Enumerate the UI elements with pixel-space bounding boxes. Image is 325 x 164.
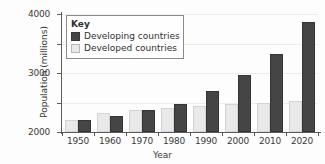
x-axis-tick-label-2010: 2010 bbox=[259, 136, 281, 146]
bar-developing-1950 bbox=[78, 120, 91, 132]
bar-developing-2010 bbox=[270, 54, 283, 132]
legend-swatch-developing bbox=[71, 32, 80, 41]
x-axis-tick bbox=[222, 132, 223, 136]
x-axis-tick bbox=[62, 132, 63, 136]
x-axis-tick bbox=[318, 132, 319, 136]
x-axis-tick bbox=[126, 132, 127, 136]
bar-developing-2000 bbox=[238, 75, 251, 132]
bar-developing-1960 bbox=[110, 116, 123, 132]
x-axis-tick-label-2000: 2000 bbox=[227, 136, 249, 146]
bar-developed-1980 bbox=[161, 108, 174, 132]
x-axis-tick bbox=[94, 132, 95, 136]
y-axis-tick: 1000 bbox=[57, 103, 62, 104]
x-axis-title: Year bbox=[0, 150, 325, 160]
legend-label-developing: Developing countries bbox=[84, 31, 180, 42]
legend-item-developed: Developed countries bbox=[71, 43, 179, 54]
bar-developed-2020 bbox=[289, 101, 302, 132]
x-axis-tick-label-2020: 2020 bbox=[291, 136, 313, 146]
x-axis-tick bbox=[286, 132, 287, 136]
x-axis-line bbox=[61, 132, 321, 133]
population-bar-chart: Population (millions) Year 0100020003000… bbox=[0, 0, 325, 164]
bar-developing-1970 bbox=[142, 110, 155, 132]
y-axis-tick: 2000 bbox=[57, 73, 62, 74]
y-axis-tick-label: 4000 bbox=[28, 9, 50, 19]
legend-title: Key bbox=[71, 19, 179, 29]
bar-developed-1970 bbox=[129, 110, 142, 132]
y-axis-tick: 3000 bbox=[57, 44, 62, 45]
chart-legend: Key Developing countries Developed count… bbox=[66, 15, 184, 59]
x-axis-tick bbox=[190, 132, 191, 136]
y-axis-tick: 4000 bbox=[57, 14, 62, 15]
x-axis-tick-label-1970: 1970 bbox=[131, 136, 153, 146]
bar-developed-1960 bbox=[97, 113, 110, 132]
x-axis-tick-label-1950: 1950 bbox=[67, 136, 89, 146]
bar-developed-2000 bbox=[225, 104, 238, 132]
x-axis-tick-label-1990: 1990 bbox=[195, 136, 217, 146]
bar-developed-1950 bbox=[65, 120, 78, 132]
legend-swatch-developed bbox=[71, 44, 80, 53]
x-axis-tick bbox=[254, 132, 255, 136]
x-axis-tick bbox=[158, 132, 159, 136]
legend-item-developing: Developing countries bbox=[71, 31, 179, 42]
bar-developing-1990 bbox=[206, 91, 219, 132]
legend-label-developed: Developed countries bbox=[84, 43, 177, 54]
y-axis-tick-label: 2000 bbox=[28, 127, 50, 137]
bar-developed-1990 bbox=[193, 106, 206, 132]
x-axis-tick-label-1980: 1980 bbox=[163, 136, 185, 146]
bar-developed-2010 bbox=[257, 103, 270, 133]
x-axis-tick-label-1960: 1960 bbox=[99, 136, 121, 146]
bar-developing-1980 bbox=[174, 104, 187, 132]
y-axis-tick-label: 3000 bbox=[28, 68, 50, 78]
bar-developing-2020 bbox=[302, 22, 315, 132]
